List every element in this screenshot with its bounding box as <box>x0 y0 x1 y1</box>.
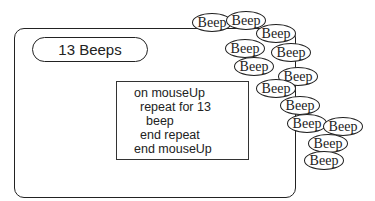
script-line: end mouseUp <box>134 142 212 157</box>
beep-bubble: Beep <box>304 151 344 170</box>
script-line: repeat for 13 <box>140 100 211 115</box>
beep-bubble: Beep <box>256 79 296 98</box>
beep-bubble: Beep <box>308 134 348 153</box>
button-label: 13 Beeps <box>58 41 121 58</box>
13-beeps-button[interactable]: 13 Beeps <box>32 37 148 62</box>
beep-bubble: Beep <box>287 114 327 133</box>
script-line: end repeat <box>140 128 200 143</box>
script-line: beep <box>146 114 174 129</box>
beep-bubble: Beep <box>280 96 320 115</box>
beep-bubble: Beep <box>256 24 296 43</box>
beep-bubble: Beep <box>234 57 274 76</box>
script-box: on mouseUp repeat for 13 beep end repeat… <box>116 81 249 160</box>
beep-bubble: Beep <box>225 39 265 58</box>
script-line: on mouseUp <box>134 86 205 101</box>
beep-bubble: Beep <box>271 43 311 62</box>
